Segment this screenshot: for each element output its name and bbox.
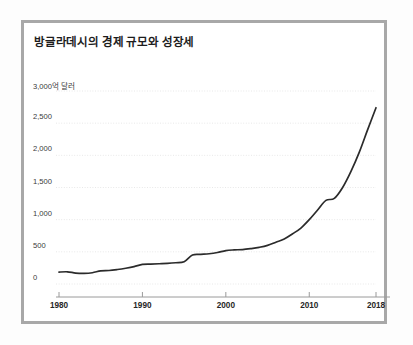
- chart-card: 방글라데시의 경제 규모와 성장세 05001,0001,5002,0002,5…: [21, 20, 387, 324]
- chart-plot-area: 05001,0001,5002,0002,5003,000억 달러1980199…: [24, 23, 390, 327]
- y-axis-tick-label: 3,000억 달러: [33, 80, 75, 91]
- y-axis-tick-label: 500: [33, 241, 46, 250]
- x-axis-tick-label: 2000: [217, 301, 235, 310]
- y-axis-tick-label: 1,000: [33, 209, 52, 218]
- line-chart-svg: [24, 23, 390, 327]
- x-axis-tick-label: 2010: [300, 301, 318, 310]
- y-axis-tick-label: 1,500: [33, 177, 52, 186]
- data-series-line: [59, 108, 376, 274]
- y-axis-tick-label: 0: [33, 273, 37, 282]
- y-axis-tick-label: 2,500: [33, 112, 52, 121]
- x-axis-tick-label: 2018: [367, 301, 385, 310]
- x-axis-tick-label: 1980: [50, 301, 68, 310]
- x-axis-tick-label: 1990: [133, 301, 151, 310]
- screenshot-root: 방글라데시의 경제 규모와 성장세 05001,0001,5002,0002,5…: [0, 0, 413, 345]
- y-axis-tick-label: 2,000: [33, 144, 52, 153]
